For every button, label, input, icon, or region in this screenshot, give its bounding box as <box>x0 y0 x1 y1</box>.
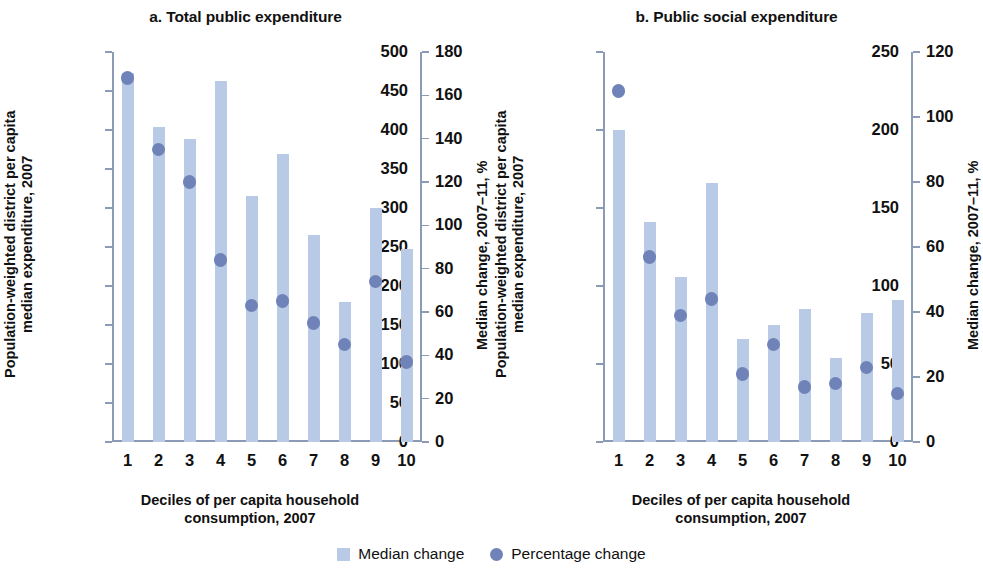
left-axis-tick <box>105 324 112 326</box>
bar-decile-10 <box>892 300 904 442</box>
panel-a-left-axis-title: Population-weighted district per capita … <box>2 44 36 444</box>
point-decile-4 <box>214 253 228 267</box>
bar-decile-8 <box>339 302 351 442</box>
right-axis-tick <box>422 355 429 357</box>
right-axis-line <box>420 52 422 442</box>
right-axis-tick-label: 140 <box>435 130 495 147</box>
left-axis-tick <box>596 285 603 287</box>
left-axis-line <box>603 52 605 442</box>
right-axis-tick-label: 80 <box>926 173 983 190</box>
left-axis-tick <box>596 207 603 209</box>
right-axis-tick <box>422 398 429 400</box>
right-axis-tick <box>913 441 920 443</box>
right-axis-tick-label: 0 <box>926 433 983 450</box>
right-axis-tick-label: 40 <box>926 303 983 320</box>
point-decile-3 <box>183 175 197 189</box>
left-axis-tick-label: 200 <box>839 121 899 138</box>
point-decile-6 <box>276 294 290 308</box>
panel-b-left-axis-title-text: Population-weighted district per capita … <box>493 110 526 377</box>
right-axis-tick <box>422 225 429 227</box>
left-axis-tick <box>596 363 603 365</box>
bar-decile-8 <box>830 358 842 442</box>
panel-b-right-axis-title: Median change, 2007–11, % <box>965 70 982 440</box>
bar-decile-5 <box>737 339 749 442</box>
point-decile-7 <box>798 380 812 394</box>
left-axis-tick <box>105 207 112 209</box>
point-decile-7 <box>307 316 321 330</box>
right-axis-tick-label: 40 <box>435 346 495 363</box>
right-axis-tick <box>913 51 920 53</box>
point-decile-9 <box>860 361 874 375</box>
chart-legend: Median change Percentage change <box>0 545 983 563</box>
right-axis-tick <box>422 95 429 97</box>
legend-circle-swatch-icon <box>490 548 503 561</box>
bar-decile-9 <box>861 313 873 442</box>
right-axis-tick <box>913 376 920 378</box>
left-axis-tick <box>105 402 112 404</box>
right-axis-tick-label: 120 <box>435 173 495 190</box>
right-axis-tick <box>422 268 429 270</box>
left-axis-tick <box>105 246 112 248</box>
left-axis-tick <box>105 90 112 92</box>
left-axis-line <box>112 52 114 442</box>
point-decile-3 <box>674 309 688 323</box>
bar-decile-2 <box>153 127 165 442</box>
panel-b-left-axis-title: Population-weighted district per capita … <box>493 44 527 444</box>
x-axis-tick-label: 10 <box>878 452 918 469</box>
left-axis-tick <box>105 363 112 365</box>
left-axis-tick-label: 400 <box>348 121 408 138</box>
left-axis-tick <box>105 441 112 443</box>
legend-square-swatch-icon <box>337 548 350 561</box>
panel-a-x-axis-title: Deciles of per capita household consumpt… <box>40 492 460 527</box>
bar-decile-1 <box>613 130 625 442</box>
right-axis-tick-label: 120 <box>926 43 983 60</box>
point-decile-5 <box>736 367 750 381</box>
right-axis-tick-label: 60 <box>435 303 495 320</box>
left-axis-tick <box>596 441 603 443</box>
left-axis-tick-label: 500 <box>348 43 408 60</box>
right-axis-tick-label: 20 <box>435 390 495 407</box>
panel-a-left-axis-title-text: Population-weighted district per capita … <box>2 110 35 377</box>
right-axis-tick <box>422 311 429 313</box>
legend-item-median-change: Median change <box>337 545 464 563</box>
right-axis-tick-label: 160 <box>435 86 495 103</box>
left-axis-tick-label: 100 <box>839 277 899 294</box>
bar-decile-9 <box>370 208 382 442</box>
right-axis-tick-label: 180 <box>435 43 495 60</box>
right-axis-tick-label: 100 <box>926 108 983 125</box>
right-axis-tick <box>913 181 920 183</box>
right-axis-tick-label: 80 <box>435 260 495 277</box>
left-axis-tick <box>105 285 112 287</box>
point-decile-10 <box>400 355 414 369</box>
bar-decile-4 <box>706 183 718 442</box>
right-axis-tick <box>422 51 429 53</box>
left-axis-tick <box>105 129 112 131</box>
point-decile-1 <box>121 71 135 85</box>
left-axis-tick-label: 150 <box>839 199 899 216</box>
legend-item-percentage-change: Percentage change <box>490 545 645 563</box>
bar-decile-1 <box>122 73 134 442</box>
bar-decile-10 <box>401 249 413 442</box>
figure-container: a. Total public expenditure Population-w… <box>0 0 983 583</box>
left-axis-tick <box>105 51 112 53</box>
panel-b-plot-area: 0501001502002500204060801001201234567891… <box>603 52 913 442</box>
panel-a-title: a. Total public expenditure <box>0 8 491 26</box>
left-axis-tick-label: 250 <box>839 43 899 60</box>
right-axis-tick-label: 20 <box>926 368 983 385</box>
right-axis-tick-label: 0 <box>435 433 495 450</box>
right-axis-tick <box>913 311 920 313</box>
right-axis-tick <box>422 138 429 140</box>
left-axis-tick <box>596 129 603 131</box>
left-axis-tick-label: 350 <box>348 160 408 177</box>
right-axis-tick <box>913 116 920 118</box>
left-axis-tick <box>596 51 603 53</box>
chart-panel-b: b. Public social expenditure Population-… <box>491 0 982 540</box>
panel-b-x-axis-title: Deciles of per capita household consumpt… <box>531 492 951 527</box>
x-axis-tick-label: 10 <box>387 452 427 469</box>
left-axis-tick-label: 450 <box>348 82 408 99</box>
bar-decile-5 <box>246 196 258 442</box>
right-axis-tick <box>422 441 429 443</box>
right-axis-tick-label: 60 <box>926 238 983 255</box>
legend-label-median-change: Median change <box>358 545 464 563</box>
left-axis-tick <box>105 168 112 170</box>
